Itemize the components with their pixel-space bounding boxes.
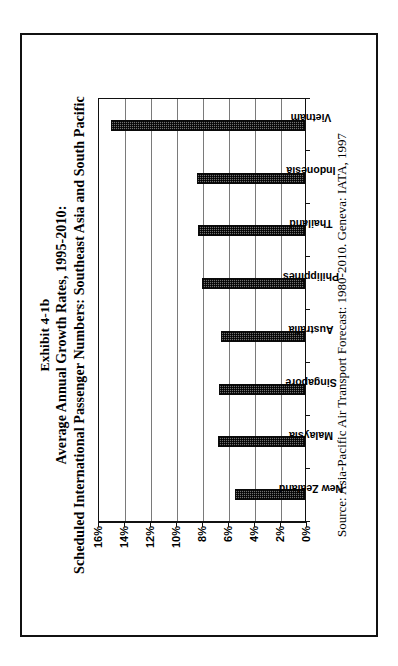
x-axis-category-label: Vietnam — [291, 113, 332, 125]
x-axis-category-label: Malaysia — [289, 431, 333, 443]
bar-slot — [99, 152, 305, 205]
y-axis-tick-label: 16% — [92, 526, 104, 548]
bar-series — [99, 99, 305, 521]
y-axis-tick-label: 14% — [118, 526, 130, 548]
bar-slot — [99, 310, 305, 363]
bar-slot — [99, 99, 305, 152]
y-axis-tick-label: 4% — [248, 526, 260, 542]
y-axis-tick-label: 0% — [300, 526, 312, 542]
y-axis-tick-label: 6% — [222, 526, 234, 542]
figure-title-block: Exhibit 4-1b Average Annual Growth Rates… — [36, 52, 89, 618]
x-axis-category-label: Thailand — [289, 219, 332, 231]
bar-slot — [99, 257, 305, 310]
y-axis-tick-label: 12% — [144, 526, 156, 548]
x-axis-category-label: Singapore — [285, 378, 336, 390]
bar-slot — [99, 416, 305, 469]
y-axis-line — [98, 522, 306, 523]
chart-title-line-2: Scheduled International Passenger Number… — [71, 52, 89, 618]
y-axis-labels: 0%2%4%6%8%10%12%14%16% — [98, 522, 306, 562]
x-axis-category-label: Australia — [289, 325, 334, 337]
x-axis-category-label: Philippines — [283, 272, 339, 284]
y-axis-tick-mark — [306, 522, 307, 527]
scanned-page: Exhibit 4-1b Average Annual Growth Rates… — [0, 0, 398, 666]
chart-title-line-1: Average Annual Growth Rates, 1995-2010: — [53, 52, 71, 618]
bar-slot — [99, 363, 305, 416]
plot-area — [98, 98, 306, 522]
plot-area-wrapper — [98, 98, 306, 522]
y-axis-tick-label: 2% — [274, 526, 286, 542]
y-axis-tick-label: 8% — [196, 526, 208, 542]
bar[interactable] — [111, 120, 305, 131]
y-axis-tick-label: 10% — [170, 526, 182, 548]
x-axis-category-label: Indonesia — [286, 166, 335, 178]
bar-slot — [99, 205, 305, 258]
figure-stage: Exhibit 4-1b Average Annual Growth Rates… — [34, 52, 364, 618]
page-border: Exhibit 4-1b Average Annual Growth Rates… — [20, 33, 378, 637]
exhibit-label: Exhibit 4-1b — [36, 52, 53, 618]
source-caption: Source: Asia-Pacific Air Transport Forec… — [334, 52, 350, 618]
bar-slot — [99, 468, 305, 521]
